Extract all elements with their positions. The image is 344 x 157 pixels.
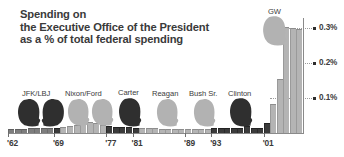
x-tick-label: '01 <box>263 138 274 148</box>
x-tick-label: '81 <box>132 138 143 148</box>
plot-area: 0.1%0.2%0.3% '62'69'77'81'89'93'01 JFK/L… <box>0 0 344 157</box>
x-axis-line <box>8 133 304 134</box>
x-tick-marker <box>106 133 107 137</box>
x-tick-marker <box>133 133 134 137</box>
bar <box>277 79 283 133</box>
x-tick-label: '69 <box>53 138 64 148</box>
y-tick-marker <box>313 27 316 30</box>
president-head-icon <box>66 98 91 127</box>
president-head-icon <box>155 98 180 128</box>
president-head-icon <box>261 15 288 47</box>
president-label: GW <box>268 7 281 16</box>
bar <box>67 126 73 133</box>
y-tick-label: 0.3% <box>319 23 337 32</box>
x-tick-label: '77 <box>105 138 116 148</box>
y-tick-marker <box>313 62 316 65</box>
president-label: JFK/LBJ <box>22 89 50 98</box>
president-label: Clinton <box>228 89 251 98</box>
bar <box>106 126 112 133</box>
x-tick-marker <box>264 133 265 137</box>
president-label: Reagan <box>152 89 178 98</box>
president-head-icon <box>228 97 254 128</box>
president-head-icon <box>117 97 143 128</box>
president-label: Nixon/Ford <box>65 89 102 98</box>
x-tick-marker <box>8 133 9 137</box>
bar <box>290 28 296 133</box>
x-tick-label: '93 <box>210 138 221 148</box>
y-tick-label: 0.2% <box>319 58 337 67</box>
president-label: Bush Sr. <box>189 89 217 98</box>
bar <box>296 29 302 133</box>
x-tick-marker <box>211 133 212 137</box>
bar <box>264 123 270 133</box>
president-head-icon <box>90 98 115 127</box>
president-head-icon <box>40 98 66 128</box>
bar <box>270 104 276 133</box>
x-tick-label: '62 <box>7 138 18 148</box>
y-tick-label: 0.1% <box>319 93 337 102</box>
chart-root: Spending on the Executive Office of the … <box>0 0 344 157</box>
president-head-icon <box>16 98 42 128</box>
x-tick-label: '89 <box>184 138 195 148</box>
president-label: Carter <box>118 88 139 97</box>
president-head-icon <box>192 98 217 128</box>
y-tick-marker <box>313 97 316 100</box>
y-axis-line <box>303 18 304 134</box>
x-tick-marker <box>185 133 186 137</box>
x-tick-marker <box>54 133 55 137</box>
